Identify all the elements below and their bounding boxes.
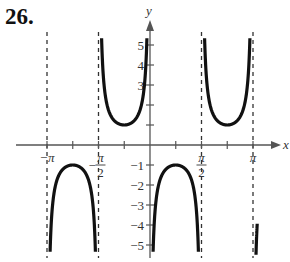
curve-branch [256, 224, 257, 255]
y-tick-label: 5 [138, 38, 145, 53]
curve-branch [153, 165, 198, 252]
y-tick-label: −2 [130, 178, 144, 193]
y-tick-label: 4 [138, 58, 145, 73]
y-tick-label: −3 [130, 198, 144, 213]
y-axis-label: y [144, 3, 152, 18]
x-tick-label: −π [39, 150, 55, 165]
x-tick-label: π [97, 150, 104, 165]
graph: x y −π−π2π2π543−1−2−3−4−5 [0, 0, 290, 262]
curve-branch [50, 165, 95, 252]
y-tick-label: −4 [130, 218, 144, 233]
x-tick-label: 2 [198, 165, 205, 180]
axes: x y [16, 3, 289, 258]
function-curves [50, 38, 257, 255]
x-tick-label: π [250, 150, 257, 165]
x-tick-label: − [88, 158, 95, 173]
x-tick-label: π [198, 150, 205, 165]
y-axis-arrow-icon [146, 20, 154, 31]
y-tick-label: −1 [130, 158, 144, 173]
x-axis-arrow-icon [271, 141, 281, 149]
curve-branch [205, 38, 250, 125]
y-tick-label: −5 [130, 238, 144, 253]
x-tick-label: 2 [97, 165, 104, 180]
x-axis-label: x [282, 137, 289, 152]
